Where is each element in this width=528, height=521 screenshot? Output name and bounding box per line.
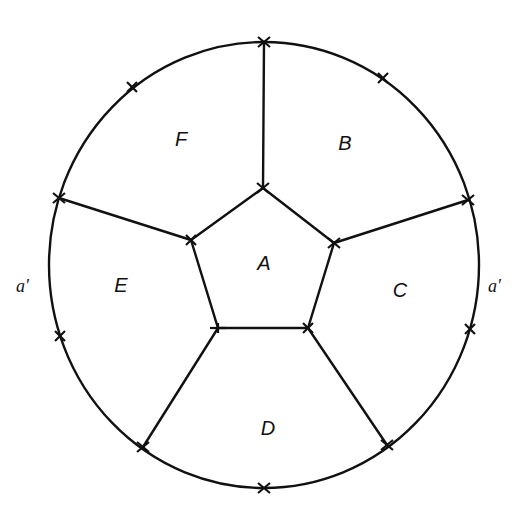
region-label-e: E xyxy=(114,274,128,296)
region-label-b: B xyxy=(338,132,351,154)
cross-marker-icon xyxy=(210,323,226,333)
side-label-a: a′ xyxy=(488,276,502,296)
side-label-a-prime: a' xyxy=(16,276,30,296)
region-label-d: D xyxy=(261,417,275,439)
region-label-c: C xyxy=(393,279,408,301)
region-label-f: F xyxy=(175,128,189,150)
spoke-lower-right xyxy=(308,328,387,445)
spoke-right xyxy=(334,200,468,243)
spoke-left xyxy=(59,198,191,240)
spoke-top xyxy=(263,42,264,188)
spoke-lower-left xyxy=(143,328,218,447)
diagram-canvas: A B C D E F a' a′ xyxy=(0,0,528,521)
region-label-a: A xyxy=(256,252,270,274)
